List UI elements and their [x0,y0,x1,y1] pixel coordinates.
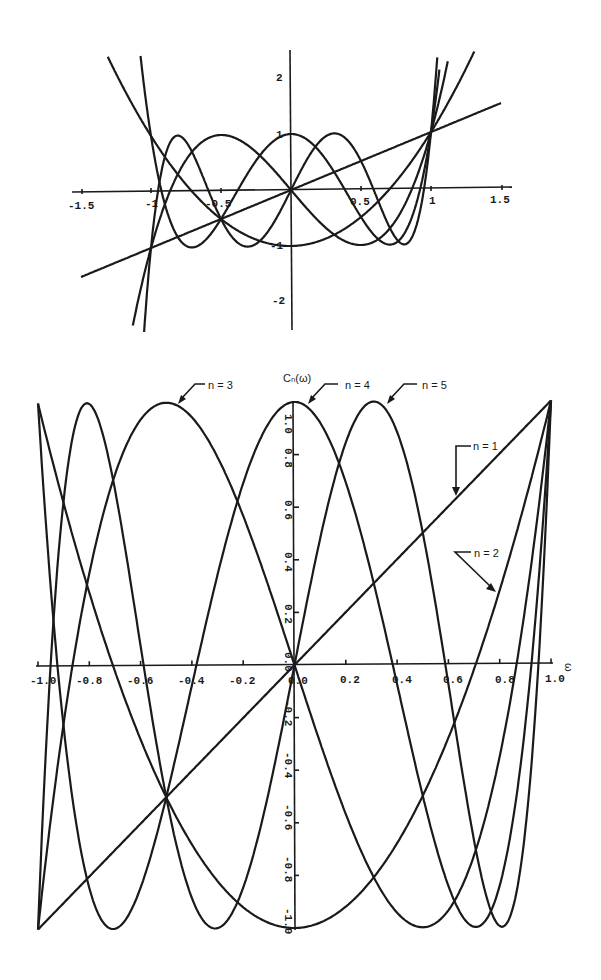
bottom-x-tick-label: -0.2 [229,675,255,687]
bottom-plot: Cₙ(ω) ω -1.0 -0.8 -0.6 -0.4 -0.2 0.0 0.2… [30,372,575,934]
bottom-y-tick-label: -0.8 [282,856,294,883]
bottom-y-tick-label: -0.6 [282,804,294,830]
top-y-tick-label: -2 [272,295,285,307]
annotation-n1: n = 1 [452,440,498,496]
top-y-tick-label: 2 [276,72,283,84]
top-x-tick-label: -1.5 [68,200,95,212]
svg-text:n = 4: n = 4 [345,379,370,391]
svg-text:n = 1: n = 1 [473,440,498,452]
annotation-n4: n = 4 [308,379,370,404]
svg-text:n = 5: n = 5 [422,379,447,391]
bottom-y-tick-label: 0.6 [282,500,294,520]
bottom-y-tick-label: 0.8 [282,448,294,468]
figure-canvas: -1.5 -1 -0.5 0.5 1 1.5 2 1 -1 -2 Cₙ(ω) ω… [0,0,601,980]
bottom-x-tick-label: 1.0 [545,673,565,685]
annotation-n5: n = 5 [387,379,447,404]
annotation-n3: n = 3 [178,379,233,404]
bottom-y-tick-label: -1.0 [282,908,294,934]
svg-text:n = 2: n = 2 [474,547,499,559]
bottom-y-tick-label: 1.0 [282,414,294,434]
top-x-tick-label: 1.5 [490,194,510,206]
top-plot: -1.5 -1 -0.5 0.5 1 1.5 2 1 -1 -2 [68,50,512,332]
bottom-x-tick-label: -0.8 [76,675,103,687]
annotation-n2: n = 2 [455,547,499,592]
bottom-x-tick-label: 0.2 [340,674,360,686]
bottom-x-tick-label: -1.0 [30,675,56,687]
top-x-tick-label: 1 [429,195,436,207]
bottom-x-tick-label: -0.6 [127,675,153,687]
bottom-y-tick-label: 0.4 [282,552,294,572]
bottom-y-tick-label: -0.4 [282,752,294,779]
x-axis-title: ω [563,663,575,672]
y-axis-title: Cₙ(ω) [283,372,311,384]
svg-text:n = 3: n = 3 [208,379,233,391]
bottom-y-tick-label: 0.2 [282,604,294,624]
